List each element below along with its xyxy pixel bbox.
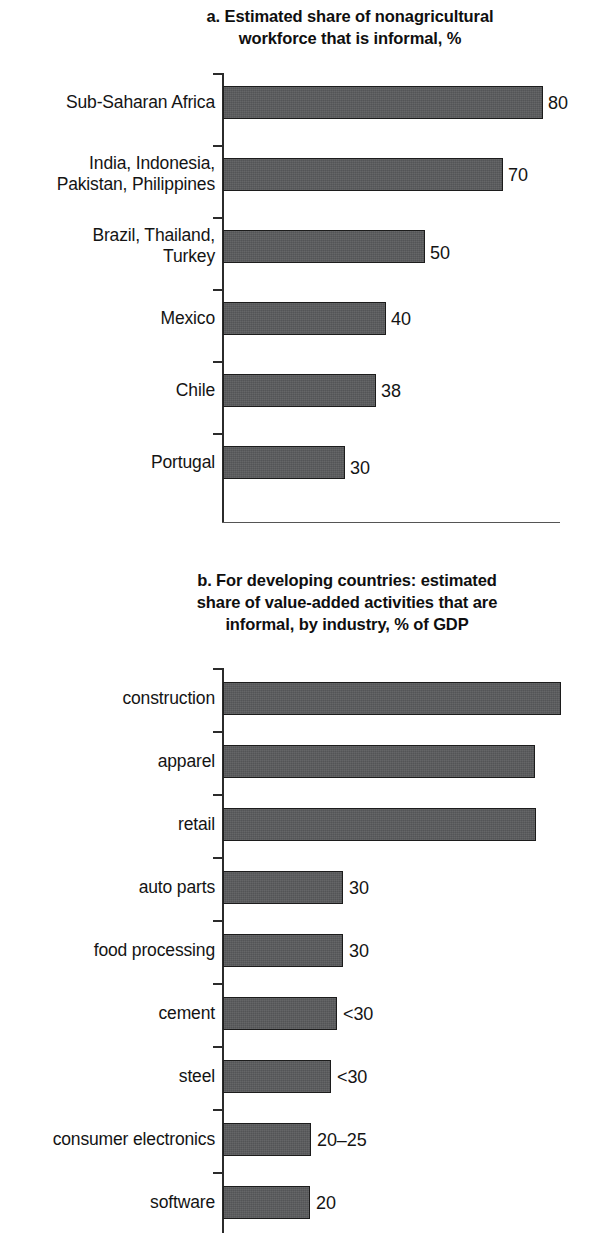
chart-a-row: India, Indonesia, Pakistan, Philippines … [0, 158, 591, 192]
chart-a-tick-5 [213, 433, 222, 435]
panel-b-title-line-1: b. For developing countries: estimated [108, 569, 586, 591]
chart-a-value-label: 50 [430, 242, 450, 264]
chart-b-value-label: 20 [316, 1192, 336, 1214]
chart-b-category-label: software [10, 1192, 215, 1213]
chart-b-category-label: apparel [10, 751, 215, 772]
chart-a-bar [223, 158, 503, 191]
chart-a-row: Portugal 30 [0, 446, 591, 480]
chart-b-row: steel <30 [0, 1060, 591, 1094]
panel-a-title-line-1: a. Estimated share of nonagricultural [120, 5, 580, 27]
chart-a-category-label: Sub-Saharan Africa [10, 92, 215, 113]
chart-b-tick-8 [213, 1172, 222, 1174]
chart-b-bar [223, 997, 337, 1030]
chart-a-bar [223, 374, 376, 407]
chart-b-value-label: <30 [337, 1066, 367, 1088]
chart-b-row: software 20 [0, 1186, 591, 1220]
chart-a-bar [223, 302, 386, 335]
chart-b-bar [223, 745, 535, 778]
chart-b-row: construction [0, 682, 591, 716]
chart-a-tick-1 [213, 145, 222, 147]
chart-b-category-label: cement [10, 1003, 215, 1024]
chart-a-row: Brazil, Thailand, Turkey 50 [0, 230, 591, 264]
chart-b-bar [223, 808, 536, 841]
chart-a-tick-4 [213, 361, 222, 363]
chart-b-row: cement <30 [0, 997, 591, 1031]
chart-a-category-label: Brazil, Thailand, Turkey [10, 225, 215, 267]
chart-b-category-label: auto parts [10, 877, 215, 898]
chart-a-tick-2 [213, 217, 222, 219]
chart-a-tick-0 [213, 73, 222, 75]
chart-b-category-label: steel [10, 1066, 215, 1087]
chart-b-bar [223, 1186, 310, 1219]
chart-b-bar [223, 934, 343, 967]
chart-a-category-label: Portugal [10, 452, 215, 473]
panel-b-title-line-2: share of value-added activities that are [108, 591, 586, 613]
chart-b-tick-4 [213, 920, 222, 922]
chart-a-value-label: 40 [391, 308, 411, 330]
panel-b-title: b. For developing countries: estimated s… [108, 569, 586, 635]
chart-b-value-label: 30 [349, 877, 369, 899]
chart-b-tick-3 [213, 857, 222, 859]
chart-b-row: retail [0, 808, 591, 842]
chart-b-bar [223, 682, 561, 715]
chart-panel-b: construction apparel retail auto parts [0, 665, 591, 1233]
chart-b-value-label: <30 [343, 1003, 373, 1025]
panel-b-title-line-3: informal, by industry, % of GDP [108, 613, 586, 635]
chart-a-category-label: India, Indonesia, Pakistan, Philippines [10, 153, 215, 195]
panel-a-title-line-2: workforce that is informal, % [120, 27, 580, 49]
chart-b-category-label: construction [10, 688, 215, 709]
chart-panel-a: Sub-Saharan Africa 80 India, Indonesia, … [0, 70, 591, 530]
chart-b-row: food processing 30 [0, 934, 591, 968]
chart-b-row: apparel [0, 745, 591, 779]
chart-b-tick-5 [213, 983, 222, 985]
chart-b-bar [223, 1060, 331, 1093]
chart-a-value-label: 80 [548, 92, 568, 114]
chart-b-row: auto parts 30 [0, 871, 591, 905]
chart-b-value-label: 20–25 [317, 1129, 367, 1151]
chart-a-row: Mexico 40 [0, 302, 591, 336]
chart-b-row: consumer electronics 20–25 [0, 1123, 591, 1157]
chart-a-bar [223, 230, 425, 263]
chart-a-category-label: Chile [10, 380, 215, 401]
chart-a-tick-3 [213, 289, 222, 291]
chart-b-category-label: food processing [10, 940, 215, 961]
chart-a-value-label: 30 [350, 457, 370, 479]
chart-a-value-label: 38 [381, 380, 401, 402]
chart-b-tick-7 [213, 1109, 222, 1111]
chart-a-row: Chile 38 [0, 374, 591, 408]
chart-a-category-label: Mexico [10, 308, 215, 329]
chart-b-tick-0 [213, 668, 222, 670]
chart-b-value-label: 30 [349, 940, 369, 962]
chart-b-category-label: retail [10, 814, 215, 835]
chart-b-tick-2 [213, 794, 222, 796]
chart-b-bar [223, 1123, 311, 1156]
panel-a-title: a. Estimated share of nonagricultural wo… [120, 5, 580, 49]
chart-a-bar [223, 86, 543, 119]
chart-a-x-axis-baseline [222, 522, 560, 523]
chart-b-tick-1 [213, 731, 222, 733]
chart-a-value-label: 70 [508, 164, 528, 186]
chart-a-bar [223, 446, 345, 479]
chart-b-tick-6 [213, 1046, 222, 1048]
chart-b-bar [223, 871, 343, 904]
chart-b-category-label: consumer electronics [0, 1129, 215, 1150]
chart-a-row: Sub-Saharan Africa 80 [0, 86, 591, 120]
